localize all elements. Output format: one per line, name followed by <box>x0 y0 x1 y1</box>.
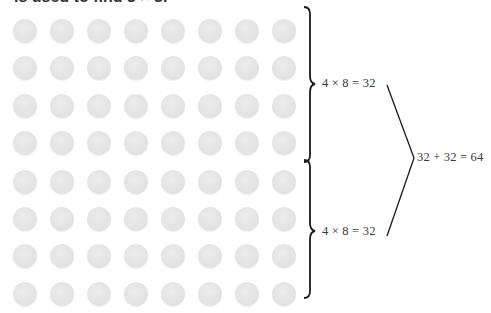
upper-connector-line <box>387 85 414 158</box>
total-equation: 32 + 32 = 64 <box>417 150 484 165</box>
bottom-group-equation: 4 × 8 = 32 <box>322 224 376 239</box>
array-diagram: is used to find 8 × 8. 4 × 8 = 32 4 × 8 … <box>0 0 491 313</box>
top-group-equation: 4 × 8 = 32 <box>322 76 376 91</box>
lower-connector-line <box>387 158 414 236</box>
bottom-brace-icon <box>304 160 315 298</box>
top-brace-icon <box>304 7 315 162</box>
